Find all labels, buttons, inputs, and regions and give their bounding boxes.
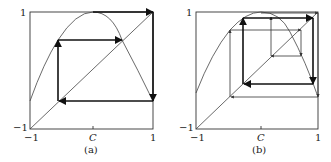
panel-a-ymax-label: 1 [20,7,26,18]
panel-b-center-label: C [257,132,265,143]
panel-a-xmax-label: 1 [150,132,156,143]
panel-b: 1 −1 −1 C 1 (b) [179,7,321,155]
panel-a: 1 −1 −1 C 1 (a) [13,7,156,155]
panel-a-caption: (a) [84,144,98,155]
panel-a-map-curve [30,12,153,101]
panel-a-diagonal [30,12,153,129]
panel-b-ymax-label: 1 [186,7,192,18]
panel-b-xmin-label: −1 [190,132,205,143]
panel-b-diagonal [196,12,318,129]
panel-b-xmax-label: 1 [315,132,321,143]
panel-a-xmin-label: −1 [24,132,39,143]
panel-a-center-label: C [89,132,97,143]
cobweb-figure: 1 −1 −1 C 1 (a) 1 −1 −1 C 1 (b) [0,0,331,162]
panel-b-caption: (b) [252,144,266,155]
